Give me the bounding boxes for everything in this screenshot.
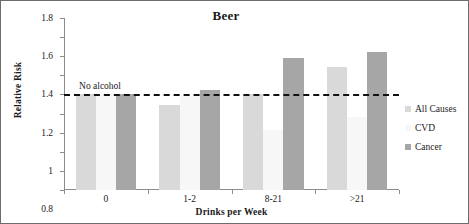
x-tick-mark: [148, 190, 149, 194]
y-tick-label: 1.2: [41, 128, 53, 138]
legend-entry[interactable]: Cancer: [405, 137, 469, 156]
bar: [263, 130, 283, 190]
x-tick-mark: [64, 190, 65, 194]
x-axis-title: Drinks per Week: [64, 207, 399, 217]
x-tick-mark: [315, 190, 316, 194]
bar: [76, 94, 96, 190]
x-tick-mark: [232, 190, 233, 194]
plot-area: 00.20.40.60.811.21.41.61.8 01-28-21>21 N…: [64, 18, 399, 190]
y-tick-mark: 0.4: [60, 152, 64, 153]
y-tick-label: 1.6: [41, 51, 53, 61]
bar: [283, 58, 303, 190]
y-tick-label: 0.8: [41, 204, 53, 214]
x-tick-label: 0: [104, 194, 109, 204]
chart-figure: Beer Relative Risk 00.20.40.60.811.21.41…: [0, 0, 469, 224]
bar: [243, 94, 263, 190]
legend-label: Cancer: [415, 142, 442, 152]
bar: [347, 117, 367, 190]
y-tick-mark: 0.8: [60, 114, 64, 115]
x-tick-label: >21: [350, 194, 365, 204]
bar: [200, 90, 220, 190]
y-tick-label: 1: [48, 166, 53, 176]
legend-swatch-icon: [405, 106, 411, 112]
bar: [327, 67, 347, 190]
no-alcohol-annotation-label: No alcohol: [79, 81, 121, 91]
y-tick-mark: 1.4: [60, 56, 64, 57]
legend-label: CVD: [415, 123, 435, 133]
bar: [96, 94, 116, 190]
y-tick-label: 1.8: [41, 13, 53, 23]
x-tick-label: 8-21: [265, 194, 282, 204]
legend-entry[interactable]: CVD: [405, 118, 469, 137]
legend-swatch-icon: [405, 125, 411, 131]
y-tick-mark: 0.6: [60, 133, 64, 134]
y-tick-mark: 0.2: [60, 171, 64, 172]
legend-swatch-icon: [405, 144, 411, 150]
no-alcohol-reference-line: [64, 94, 399, 96]
chart-legend: All CausesCVDCancer: [405, 99, 469, 156]
bar: [116, 94, 136, 190]
legend-label: All Causes: [415, 104, 456, 114]
bar: [367, 52, 387, 190]
x-tick-mark: [399, 190, 400, 194]
y-tick-label: 1.4: [41, 89, 53, 99]
y-tick-mark: 1.2: [60, 75, 64, 76]
bar: [180, 96, 200, 190]
legend-entry[interactable]: All Causes: [405, 99, 469, 118]
y-axis-line: [64, 18, 65, 190]
y-axis-title: Relative Risk: [13, 40, 23, 140]
x-tick-label: 1-2: [183, 194, 196, 204]
y-tick-mark: 1.6: [60, 37, 64, 38]
bar: [159, 105, 179, 190]
y-tick-mark: 1.8: [60, 18, 64, 19]
